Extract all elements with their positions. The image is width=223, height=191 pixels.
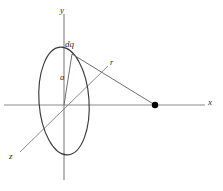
radius-label: a (60, 73, 64, 82)
y-axis-label: y (60, 6, 64, 15)
diagram-canvas (0, 0, 223, 191)
x-axis-label: x (208, 98, 212, 107)
field-point-marker (152, 102, 158, 108)
z-axis-label: z (9, 152, 13, 161)
distance-label: r (110, 58, 113, 67)
distance-line-r (72, 54, 155, 105)
radius-line-a (64, 54, 72, 105)
charge-element-label: dq (65, 40, 74, 49)
physics-diagram-figure: y x z dq a r (0, 0, 223, 191)
